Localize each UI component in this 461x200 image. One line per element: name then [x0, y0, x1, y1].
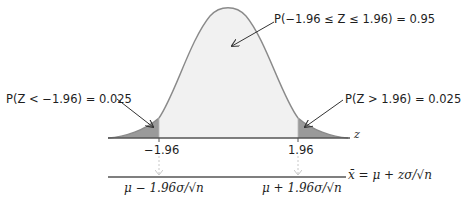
center-probability-label: P(−1.96 ≤ Z ≤ 1.96) = 0.95: [274, 12, 435, 26]
right-tail-area: [298, 118, 348, 138]
center-area: [159, 8, 298, 138]
xbar-axis-label: x̄ = μ + zσ/√n: [348, 168, 432, 182]
z-axis-label: z: [354, 128, 360, 141]
arrow-right-tail: [305, 100, 343, 127]
left-tail-area: [108, 118, 159, 138]
xbar-tick-right: μ + 1.96σ/√n: [262, 181, 342, 195]
right-tail-probability-label: P(Z > 1.96) = 0.025: [345, 92, 461, 106]
z-tick-left: −1.96: [144, 143, 179, 157]
xbar-tick-left: μ − 1.96σ/√n: [124, 181, 204, 195]
z-tick-right: 1.96: [288, 143, 314, 157]
left-tail-probability-label: P(Z < −1.96) = 0.025: [6, 92, 132, 106]
